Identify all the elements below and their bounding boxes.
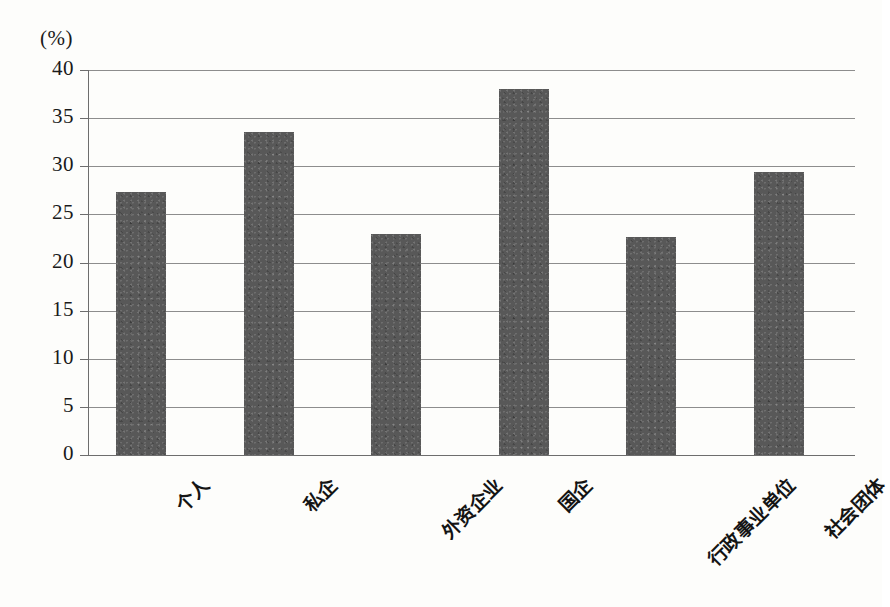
bar-2 xyxy=(244,132,294,455)
x-tick-label-1: 个人 xyxy=(168,471,214,517)
y-tick-0 xyxy=(80,455,89,456)
y-tick-5 xyxy=(80,407,89,408)
y-axis-title: (%) xyxy=(40,26,73,51)
y-tick-25 xyxy=(80,214,89,215)
x-tick-label-4: 国企 xyxy=(551,471,597,517)
bar-4 xyxy=(499,89,549,455)
y-tick-20 xyxy=(80,263,89,264)
y-tick-15 xyxy=(80,311,89,312)
y-tick-label: 25 xyxy=(34,200,74,225)
gridline-20 xyxy=(88,263,855,264)
x-tick-label-5: 行政事业单位 xyxy=(701,471,801,571)
x-tick-label-2: 私企 xyxy=(296,471,342,517)
gridline-5 xyxy=(88,407,855,408)
bar-3 xyxy=(371,234,421,455)
y-tick-10 xyxy=(80,359,89,360)
bar-5 xyxy=(626,237,676,455)
gridline-35 xyxy=(88,118,855,119)
y-tick-35 xyxy=(80,118,89,119)
gridline-15 xyxy=(88,311,855,312)
gridline-10 xyxy=(88,359,855,360)
y-tick-label: 0 xyxy=(34,441,74,466)
y-tick-label: 5 xyxy=(34,393,74,418)
bar-6 xyxy=(754,172,804,455)
y-tick-label: 30 xyxy=(34,152,74,177)
y-tick-30 xyxy=(80,166,89,167)
gridline-30 xyxy=(88,166,855,167)
y-tick-40 xyxy=(80,70,89,71)
gridline-40 xyxy=(88,70,855,71)
x-tick-label-6: 社会团体 xyxy=(817,471,890,544)
y-tick-label: 40 xyxy=(34,56,74,81)
y-tick-label: 15 xyxy=(34,297,74,322)
x-tick-label-3: 外资企业 xyxy=(434,471,507,544)
gridline-0 xyxy=(88,455,855,456)
y-tick-label: 35 xyxy=(34,104,74,129)
y-tick-label: 10 xyxy=(34,345,74,370)
gridline-25 xyxy=(88,214,855,215)
bar-1 xyxy=(116,192,166,455)
y-tick-label: 20 xyxy=(34,249,74,274)
